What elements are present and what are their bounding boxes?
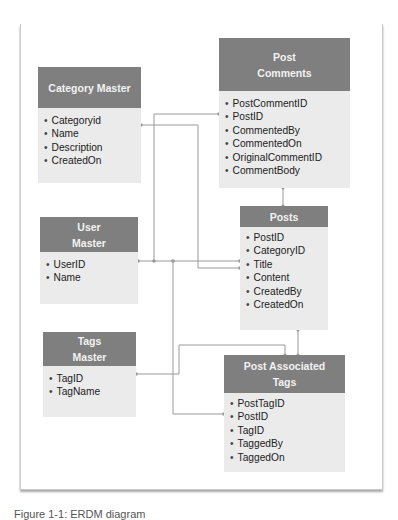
entity-post-associated-tags: Post Associated Tags PostTagID PostID Ta… [224, 355, 345, 472]
field: PostID [225, 110, 350, 123]
field-list: PostTagID PostID TagID TaggedBy TaggedOn [224, 393, 345, 464]
field-list: PostID CategoryID Title Content CreatedB… [240, 227, 328, 311]
connector-user-posttags [173, 261, 224, 414]
entity-title: Posts [270, 209, 299, 225]
entity-user-master: User Master UserID Name [40, 217, 138, 304]
field: CommentedOn [225, 137, 350, 150]
field: Name [46, 271, 138, 284]
entity-title: Category Master [48, 80, 130, 96]
field: Content [246, 271, 328, 284]
entity-header: Tags Master [43, 332, 136, 366]
entity-posts: Posts PostID CategoryID Title Content Cr… [240, 206, 328, 330]
figure-caption: Figure 1-1: ERDM diagram [14, 508, 145, 520]
field: PostID [230, 410, 345, 423]
field: CommentedBy [225, 124, 350, 137]
field: PostCommentID [225, 97, 350, 110]
connector-user-postcomments [154, 114, 219, 261]
field: Title [246, 258, 328, 271]
field-list: Categoryid Name Description CreatedOn [38, 108, 141, 168]
entity-title-line: User [77, 219, 100, 235]
entity-header: Posts [240, 206, 328, 227]
entity-category-master: Category Master Categoryid Name Descript… [38, 67, 141, 183]
entity-tags-master: Tags Master TagID TagName [43, 332, 136, 417]
field: Description [44, 141, 141, 154]
entity-header: Category Master [38, 67, 141, 108]
entity-title-line: Post Associated [244, 358, 325, 374]
field-list: TagID TagName [43, 366, 136, 399]
field: TagName [49, 385, 136, 398]
entity-title-line: Post [273, 49, 296, 65]
field: TagID [49, 372, 136, 385]
field: CreatedBy [246, 285, 328, 298]
field: OriginalCommentID [225, 151, 350, 164]
field: CreatedOn [246, 298, 328, 311]
field: PostTagID [230, 397, 345, 410]
field: Name [44, 127, 141, 140]
entity-header: Post Associated Tags [224, 355, 345, 393]
field-list: UserID Name [40, 252, 138, 285]
field: TaggedBy [230, 437, 345, 450]
entity-title-line: Comments [257, 65, 311, 81]
field: CreatedOn [44, 154, 141, 167]
field: CategoryID [246, 244, 328, 257]
field-list: PostCommentID PostID CommentedBy Comment… [219, 91, 350, 177]
entity-post-comments: Post Comments PostCommentID PostID Comme… [219, 38, 350, 188]
field: CommentBody [225, 164, 350, 177]
entity-title-line: Master [72, 235, 106, 251]
entity-header: User Master [40, 217, 138, 252]
field: TagID [230, 424, 345, 437]
entity-title-line: Master [73, 349, 107, 365]
entity-header: Post Comments [219, 38, 350, 91]
entity-title-line: Tags [273, 374, 297, 390]
field: PostID [246, 231, 328, 244]
field: Categoryid [44, 114, 141, 127]
field: TaggedOn [230, 451, 345, 464]
field: UserID [46, 258, 138, 271]
entity-title-line: Tags [78, 333, 102, 349]
